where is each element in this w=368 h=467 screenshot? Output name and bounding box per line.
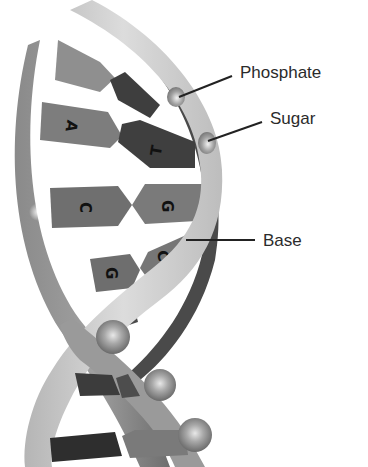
sugar-leader-line [208,122,262,141]
base-label: Base [263,232,302,249]
dna-diagram: A T C G G C [0,0,368,467]
phosphate-sphere [178,418,212,452]
highlight-glow [60,273,84,297]
base-t [118,120,195,168]
phosphate-sphere [96,320,130,354]
base-label-g2: G [102,267,120,279]
base-pair-c-g: C G [50,184,214,228]
base-label-g: G [158,200,176,212]
sugar-dimple [198,132,216,154]
base-pair-a-t: A T [40,102,195,168]
base-pair-lower-2 [50,430,188,462]
sugar-label: Sugar [270,110,315,127]
phosphate-dimple [167,87,185,107]
phosphate-sphere [144,369,176,401]
base-label-c: C [76,202,94,213]
highlight-glow [29,203,47,221]
phosphate-label: Phosphate [240,64,321,81]
